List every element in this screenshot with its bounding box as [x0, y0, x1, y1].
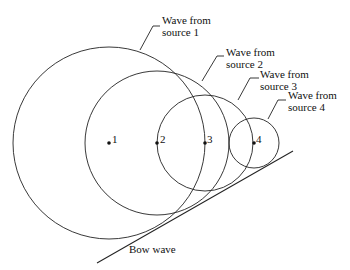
label-source-4-line1: Wave from — [288, 89, 337, 101]
label-source-3-line1: Wave from — [260, 68, 309, 80]
label-source-1: Wave from source 1 — [162, 14, 211, 38]
wave-diagram — [0, 0, 350, 270]
source-number-3: 3 — [207, 134, 213, 145]
bow-wave-label: Bow wave — [129, 243, 176, 255]
source-number-4: 4 — [256, 134, 262, 145]
label-source-4-line2: source 4 — [288, 101, 337, 113]
source-point-1 — [107, 141, 111, 145]
leader-line-source-1 — [140, 26, 160, 50]
label-source-2: Wave from source 2 — [226, 46, 275, 70]
source-number-2: 2 — [160, 134, 166, 145]
source-number-1: 1 — [112, 134, 118, 145]
bow-wave-line — [97, 151, 293, 263]
label-source-1-line2: source 1 — [162, 26, 211, 38]
leader-line-source-4 — [268, 100, 286, 119]
leader-line-source-2 — [202, 56, 224, 81]
label-source-4: Wave from source 4 — [288, 89, 337, 113]
label-source-2-line1: Wave from — [226, 46, 275, 58]
leader-line-source-3 — [238, 78, 259, 100]
label-source-1-line1: Wave from — [162, 14, 211, 26]
source-point-2 — [155, 141, 159, 145]
